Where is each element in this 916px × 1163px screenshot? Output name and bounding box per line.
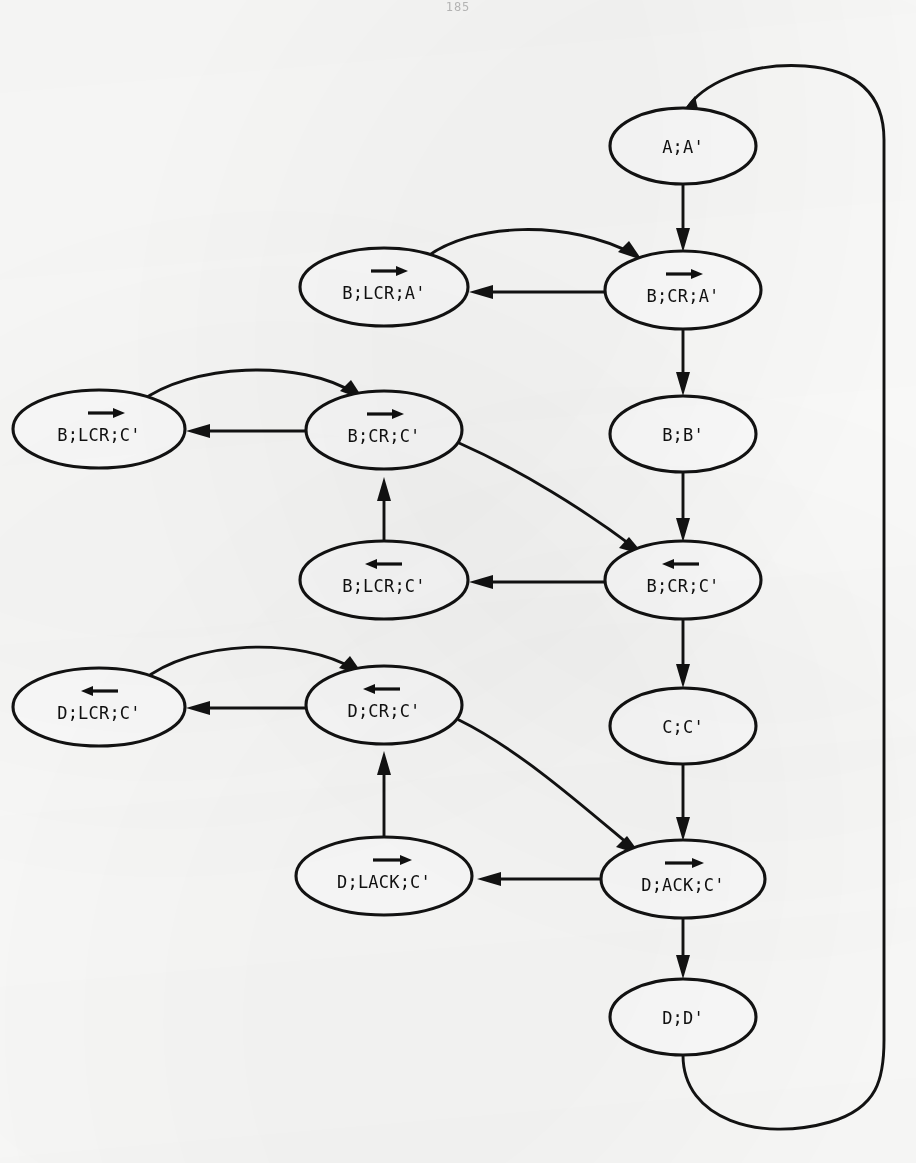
node-b-cr-aprime[interactable]: B;CR;A' [605, 251, 761, 329]
node-a-aprime[interactable]: A;A' [610, 108, 756, 184]
node-d-cr-cprime[interactable]: D;CR;C' [306, 666, 462, 744]
node-b-bprime[interactable]: B;B' [610, 396, 756, 472]
node-label: B;LCR;A' [342, 283, 425, 303]
node-c-cprime[interactable]: C;C' [610, 688, 756, 764]
node-label: D;ACK;C' [641, 875, 724, 895]
node-b-lcr-cprime-right[interactable]: B;LCR;C' [13, 390, 185, 468]
node-label: D;CR;C' [347, 701, 420, 721]
node-d-ack-cprime[interactable]: D;ACK;C' [601, 840, 765, 918]
edge-bcrc-curve-to-bcrc-left [459, 443, 644, 555]
edge-bcra-to-bb [676, 329, 690, 396]
node-layer: A;A' B;CR;A' B;LCR;A' [13, 108, 765, 1055]
node-label: B;CR;A' [646, 286, 719, 306]
node-label: A;A' [662, 137, 704, 157]
edge-bcrc-to-blcrc [186, 424, 306, 438]
edge-blcra-arc-to-bcra [424, 230, 642, 260]
node-label: D;D' [662, 1008, 704, 1028]
node-label: B;LCR;C' [57, 425, 140, 445]
edge-dcrc-to-dlcrc [186, 701, 306, 715]
node-label: D;LCR;C' [57, 703, 140, 723]
edge-dack-to-dd [676, 918, 690, 979]
edge-a-to-bcra [676, 184, 690, 252]
edge-dlack-up-to-dcrc [377, 751, 391, 837]
edge-bcra-to-blcra [469, 285, 604, 299]
node-label: B;CR;C' [347, 426, 420, 446]
node-d-dprime[interactable]: D;D' [610, 979, 756, 1055]
edge-dack-to-dlack [477, 872, 600, 886]
edge-layer [140, 66, 884, 1130]
edge-blcrc-left-up-to-bcrc [377, 477, 391, 541]
edge-bb-to-bcrc-left [676, 472, 690, 542]
node-label: B;CR;C' [646, 576, 719, 596]
node-b-lcr-cprime-left[interactable]: B;LCR;C' [300, 541, 468, 619]
node-label: C;C' [662, 717, 704, 737]
node-b-cr-cprime-left[interactable]: B;CR;C' [605, 541, 761, 619]
node-label: D;LACK;C' [337, 872, 431, 892]
node-d-lack-cprime[interactable]: D;LACK;C' [296, 837, 472, 915]
edge-bcrc-left-to-blcrc-left [469, 575, 604, 589]
node-label: B;B' [662, 425, 704, 445]
node-b-cr-cprime-right[interactable]: B;CR;C' [306, 391, 462, 469]
edge-bcrc-left-to-cc [676, 619, 690, 688]
node-label: B;LCR;C' [342, 576, 425, 596]
state-transition-diagram: A;A' B;CR;A' B;LCR;A' [0, 0, 916, 1163]
page-root: 185 [0, 0, 916, 1163]
edge-cc-to-dack [676, 764, 690, 841]
node-b-lcr-aprime[interactable]: B;LCR;A' [300, 248, 468, 326]
edge-blcrc-arc-to-bcrc [140, 370, 364, 402]
node-d-lcr-cprime[interactable]: D;LCR;C' [13, 668, 185, 746]
